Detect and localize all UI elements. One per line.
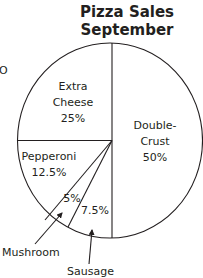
pie-chart: Pizza Sales September O Extra Cheese 25%… bbox=[0, 0, 203, 278]
slice-sausage-pct: 7.5% bbox=[81, 204, 109, 217]
slice-double-crust-label: Double- Crust 50% bbox=[134, 119, 177, 164]
callout-sausage: Sausage bbox=[67, 265, 114, 278]
chart-subtitle: September bbox=[81, 21, 175, 39]
slice-extra-cheese-label: Extra Cheese 25% bbox=[53, 80, 94, 125]
svg-text:Pepperoni: Pepperoni bbox=[22, 150, 77, 163]
mushroom-arrow-icon bbox=[35, 213, 62, 244]
cropped-text-fragment: O bbox=[0, 64, 8, 77]
slice-pepperoni-label: Pepperoni 12.5% bbox=[22, 150, 77, 179]
svg-text:12.5%: 12.5% bbox=[32, 166, 67, 179]
svg-text:50%: 50% bbox=[143, 151, 167, 164]
svg-text:Double-: Double- bbox=[134, 119, 177, 132]
callout-mushroom: Mushroom bbox=[2, 246, 60, 259]
svg-text:Extra: Extra bbox=[58, 80, 87, 93]
svg-text:Crust: Crust bbox=[140, 135, 170, 148]
svg-text:25%: 25% bbox=[61, 112, 85, 125]
svg-text:Cheese: Cheese bbox=[53, 96, 94, 109]
slice-mushroom-pct: 5% bbox=[63, 192, 80, 205]
chart-title: Pizza Sales bbox=[80, 3, 174, 21]
